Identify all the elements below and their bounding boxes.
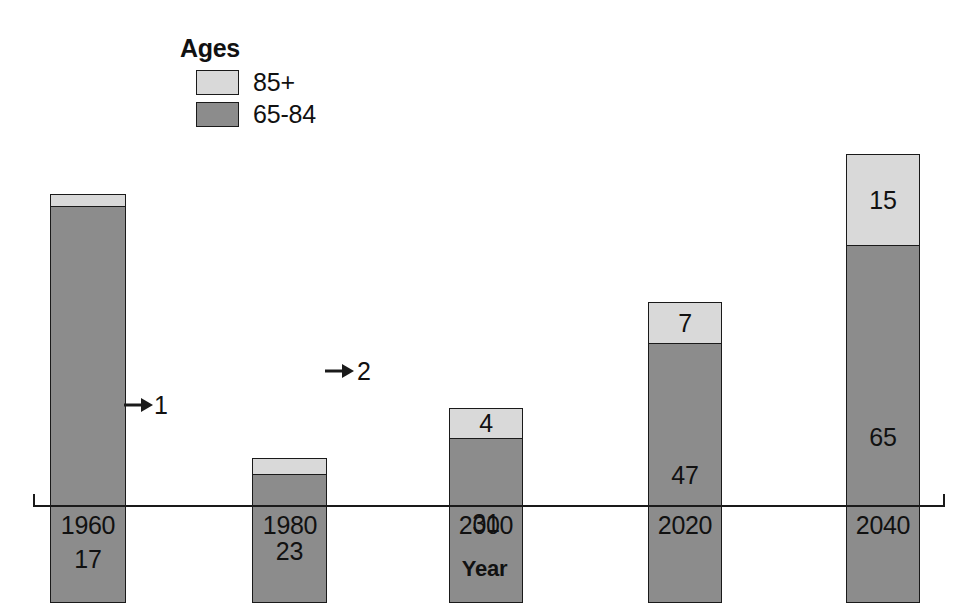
x-axis-cap-left [33, 494, 35, 506]
x-tick-label-1960: 1960 [38, 511, 138, 539]
bar-value-2040-85-plus: 15 [869, 188, 896, 213]
callout-value-1960-85-plus: 1 [154, 393, 168, 418]
x-tick-label-2020: 2020 [635, 511, 735, 539]
bar-segment-2000-85-plus[interactable]: 4 [449, 408, 523, 439]
bar-segment-1960-65-84[interactable]: 17 [50, 206, 126, 603]
bar-segment-2040-65-84[interactable]: 65 [846, 245, 920, 603]
x-tick-label-2000: 2000 [436, 511, 536, 539]
bar-value-2000-85-plus: 4 [479, 411, 493, 436]
bar-value-2020-65-84: 47 [671, 463, 698, 488]
bar-value-2020-85-plus: 7 [678, 311, 692, 336]
bar-segment-2040-85-plus[interactable]: 15 [846, 154, 920, 246]
x-tick-label-2040: 2040 [833, 511, 933, 539]
x-axis-line [33, 505, 945, 507]
x-axis-title: Year [0, 556, 969, 582]
callout-value-1980-85-plus: 2 [357, 359, 371, 384]
plot-area: 17 1 23 2 4 31 [0, 0, 969, 603]
bar-segment-2020-85-plus[interactable]: 7 [648, 302, 722, 344]
callout-arrow-1980 [325, 362, 355, 380]
bar-value-2040-65-84: 65 [869, 425, 896, 450]
bar-segment-1980-85-plus[interactable] [252, 458, 327, 475]
chart-container: Ages 85+ 65-84 17 1 23 [0, 0, 969, 603]
x-axis-cap-right [943, 494, 945, 506]
callout-arrow-1960 [124, 396, 154, 414]
x-tick-label-1980: 1980 [240, 511, 340, 539]
